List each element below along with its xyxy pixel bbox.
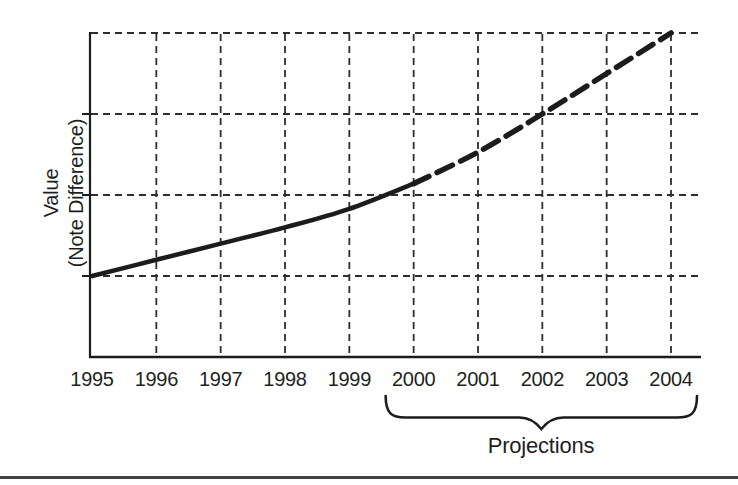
x-tick-label-1996: 1996 <box>135 368 178 391</box>
projections-brace <box>386 396 697 429</box>
chart-canvas <box>0 0 738 485</box>
y-axis-title: Value (Note Difference) <box>39 93 89 293</box>
x-tick-label-2004: 2004 <box>649 368 692 391</box>
page-bottom-rule <box>0 476 738 479</box>
y-axis-title-line-2: (Note Difference) <box>64 93 89 293</box>
x-tick-label-2000: 2000 <box>392 368 435 391</box>
y-axis-title-line-1: Value <box>39 93 64 293</box>
x-tick-label-1998: 1998 <box>263 368 306 391</box>
actual-line <box>92 184 414 276</box>
x-tick-label-1999: 1999 <box>328 368 371 391</box>
x-tick-label-1997: 1997 <box>199 368 242 391</box>
x-tick-label-2003: 2003 <box>585 368 628 391</box>
x-tick-label-2002: 2002 <box>521 368 564 391</box>
x-tick-label-2001: 2001 <box>456 368 499 391</box>
projections-label: Projections <box>488 433 595 459</box>
figure: Value (Note Difference) 1995199619971998… <box>0 0 738 485</box>
x-tick-label-1995: 1995 <box>70 368 113 391</box>
